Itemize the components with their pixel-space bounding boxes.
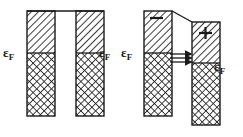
panel-biased <box>144 11 220 125</box>
fermi-label-left-equilibrium: εF <box>3 46 14 62</box>
filled-states-band <box>76 53 104 116</box>
filled-states-band <box>27 53 55 116</box>
fermi-symbol: ε <box>3 45 9 60</box>
barrier-top-tilted <box>172 11 192 22</box>
filled-states-band <box>144 53 172 116</box>
fermi-label-right-equilibrium: εF <box>99 46 110 62</box>
band-diagram-svg <box>0 0 243 137</box>
fermi-symbol: ε <box>121 45 127 60</box>
electrode-right-equilibrium <box>76 11 104 116</box>
tunnel-junction-figure: εF εF εF εF <box>0 0 243 137</box>
fermi-label-left-biased: εF <box>121 46 132 62</box>
panel-equilibrium <box>27 11 104 116</box>
fermi-label-right-biased: εF <box>214 60 225 76</box>
fermi-symbol: ε <box>99 45 105 60</box>
tunneling-arrows <box>170 54 191 62</box>
electrode-left-equilibrium <box>27 11 55 116</box>
fermi-subscript: F <box>105 52 111 62</box>
electrode-left-biased <box>144 11 172 116</box>
fermi-subscript: F <box>220 66 226 76</box>
fermi-subscript: F <box>127 52 133 62</box>
fermi-symbol: ε <box>214 59 220 74</box>
fermi-subscript: F <box>9 52 15 62</box>
empty-states-band <box>27 11 55 53</box>
